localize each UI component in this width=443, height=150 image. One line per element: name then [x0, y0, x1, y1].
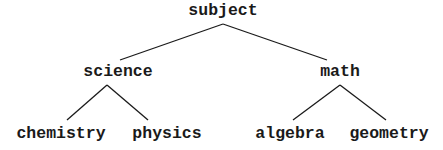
node-math: math: [320, 63, 360, 81]
edge-subject-science: [120, 24, 223, 60]
edge-science-chemistry: [67, 85, 107, 120]
node-physics: physics: [132, 125, 201, 143]
tree-diagram: subject science math chemistry physics a…: [0, 0, 443, 150]
edge-math-algebra: [293, 85, 340, 120]
edge-math-geometry: [340, 85, 386, 120]
edge-subject-math: [223, 24, 327, 60]
node-algebra: algebra: [255, 125, 324, 143]
node-geometry: geometry: [349, 125, 428, 143]
node-subject: subject: [188, 2, 257, 20]
edge-science-physics: [107, 85, 148, 120]
node-chemistry: chemistry: [16, 125, 105, 143]
node-science: science: [83, 63, 152, 81]
